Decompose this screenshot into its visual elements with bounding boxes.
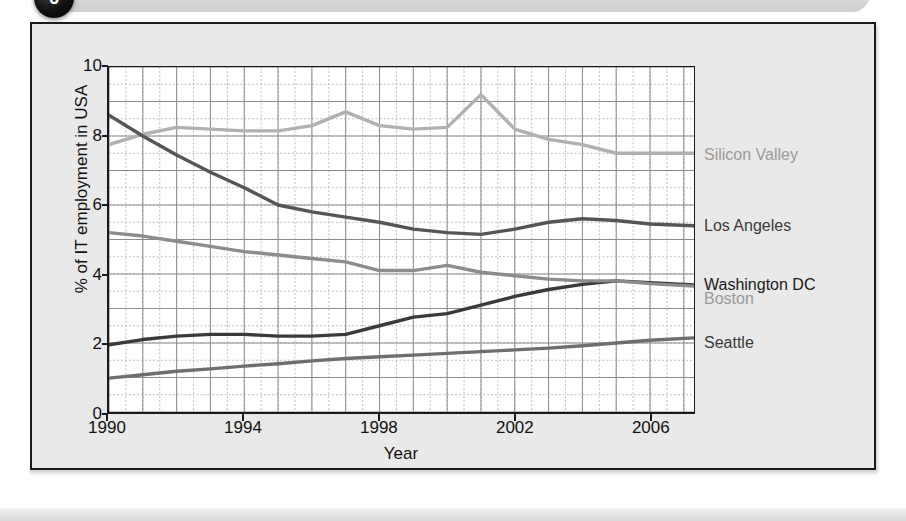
series-line-seattle [109, 338, 694, 378]
series-line-silicon-valley [109, 95, 694, 154]
series-line-boston [109, 233, 694, 286]
series-label-los-angeles: Los Angeles [704, 217, 791, 235]
x-tick-label: 1990 [88, 418, 126, 438]
section-number-badge: 6 [34, 0, 74, 18]
y-axis-tick-marks [32, 66, 112, 414]
x-tick-label: 2002 [496, 418, 534, 438]
header-title-bar: Changes in IT employment by city [40, 0, 870, 12]
page-bottom-band [0, 508, 906, 521]
x-axis-title: Year [107, 444, 695, 464]
series-label-silicon-valley: Silicon Valley [704, 146, 798, 164]
figure-frame: % of IT employment in USA 0246810 199019… [30, 22, 876, 470]
series-label-seattle: Seattle [704, 334, 754, 352]
x-axis-tick-labels: 19901994199820022006 [107, 418, 695, 444]
page-header-strip: Changes in IT employment by city [0, 0, 906, 14]
series-line-los-angeles [109, 115, 694, 234]
x-tick-label: 1998 [360, 418, 398, 438]
series-lines [109, 67, 694, 412]
plot-area [107, 66, 695, 414]
series-line-washington-dc [109, 281, 694, 345]
x-tick-label: 1994 [224, 418, 262, 438]
series-label-boston: Boston [704, 290, 754, 308]
figure-shadow [30, 470, 876, 476]
x-tick-label: 2006 [632, 418, 670, 438]
